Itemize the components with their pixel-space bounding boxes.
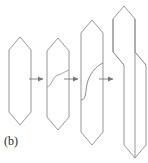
crystal-outline-stage-1 <box>9 37 31 125</box>
figure-caption-label: (b) <box>4 134 18 148</box>
slip-curve-stage-3 <box>81 63 103 100</box>
sheared-slip-plane-lower <box>113 52 124 65</box>
stage-1-undeformed-crystal <box>9 37 31 125</box>
sheared-upper-half-outline <box>113 6 135 52</box>
sheared-slip-plane-upper <box>135 52 146 65</box>
crystal-outline-stage-3 <box>81 20 103 145</box>
deformation-sequence-figure <box>0 0 148 163</box>
stage-shapes-group <box>9 6 146 158</box>
slip-curve-stage-2 <box>47 70 69 87</box>
stage-2-nucleated-slip <box>47 38 69 130</box>
stage-3-propagating-slip <box>81 20 103 145</box>
stage-4-sheared-crystal <box>113 6 146 158</box>
